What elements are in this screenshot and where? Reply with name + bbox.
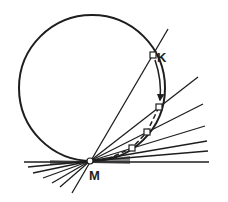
secant-rays-left xyxy=(28,161,90,187)
point-k-marker xyxy=(150,52,156,58)
ray-left-5 xyxy=(60,161,90,187)
circle xyxy=(19,15,165,161)
ray-right-4 xyxy=(90,141,207,161)
motion-arrow-arc xyxy=(155,60,160,100)
tangent-limit-diagram: K M xyxy=(0,0,228,202)
label-m: M xyxy=(89,168,100,183)
point-p2-marker xyxy=(144,129,150,135)
point-m-marker xyxy=(87,158,93,164)
ray-right-1 xyxy=(90,77,198,161)
point-p3-marker xyxy=(129,145,135,151)
label-k: K xyxy=(157,50,167,65)
point-p1-marker xyxy=(156,104,162,110)
